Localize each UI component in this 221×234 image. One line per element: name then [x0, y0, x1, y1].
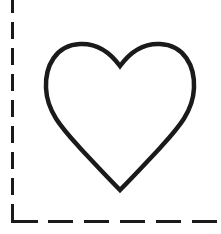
- corner-bracket: [13, 205, 39, 222]
- diagram-canvas: [0, 0, 221, 234]
- heart-icon: [46, 44, 194, 190]
- heart-diagram: [0, 0, 221, 234]
